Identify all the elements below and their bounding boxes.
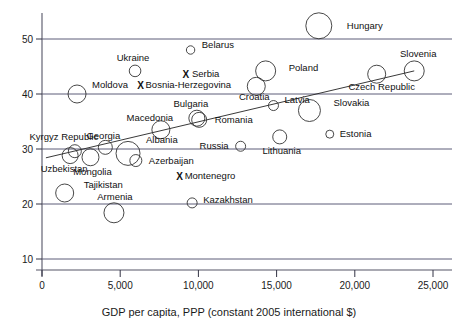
point-label: Czech Republic	[348, 81, 415, 92]
point-label: Slovakia	[333, 97, 370, 108]
y-tick-label-10: 10	[22, 254, 34, 265]
point-label: Azerbaijan	[149, 155, 194, 166]
point-label: Slovenia	[400, 48, 437, 59]
x-tick-label-25,000: 25,000	[418, 280, 449, 291]
x-marker: X	[137, 80, 144, 91]
x-tick-label-20,000: 20,000	[340, 280, 371, 291]
x-marker: X	[176, 171, 183, 182]
point-label: Kazakhstan	[203, 194, 253, 205]
point-label: Serbia	[192, 68, 220, 79]
point-label: Tajikistan	[84, 179, 123, 190]
point-label: Lithuania	[262, 145, 301, 156]
point-label: Belarus	[202, 39, 234, 50]
x-tick-label-15,000: 15,000	[261, 280, 292, 291]
point-label: Bosnia-Herzegovina	[146, 79, 232, 90]
y-tick-label-50: 50	[22, 34, 34, 45]
point-label: Bulgaria	[173, 98, 209, 109]
point-label: Russia	[200, 140, 230, 151]
point-label: Montenegro	[185, 170, 236, 181]
point-label: Armenia	[97, 191, 133, 202]
point-label: Kyrgyz Republic	[30, 131, 99, 142]
point-label: Mongolia	[73, 166, 112, 177]
x-tick-label-10,000: 10,000	[183, 280, 214, 291]
scatter-chart: 102030405005,00010,00015,00020,00025,000…	[0, 0, 458, 324]
point-label: Moldova	[92, 79, 129, 90]
point-label: Latvia	[284, 94, 310, 105]
chart-canvas: 102030405005,00010,00015,00020,00025,000…	[0, 0, 458, 324]
y-tick-label-30: 30	[22, 144, 34, 155]
point-label: Estonia	[340, 128, 372, 139]
y-tick-label-40: 40	[22, 89, 34, 100]
x-tick-label-0: 0	[39, 280, 45, 291]
x-tick-label-5,000: 5,000	[108, 280, 133, 291]
point-label: Poland	[289, 62, 319, 73]
point-label: Croatia	[239, 91, 270, 102]
point-label: Albania	[146, 134, 178, 145]
y-tick-label-20: 20	[22, 199, 34, 210]
point-label: Macedonia	[127, 112, 174, 123]
point-label: Ukraine	[117, 52, 150, 63]
point-label: Romania	[215, 114, 254, 125]
point-label: Hungary	[347, 20, 383, 31]
x-axis-title: GDP per capita, PPP (constant 2005 inter…	[102, 306, 357, 318]
